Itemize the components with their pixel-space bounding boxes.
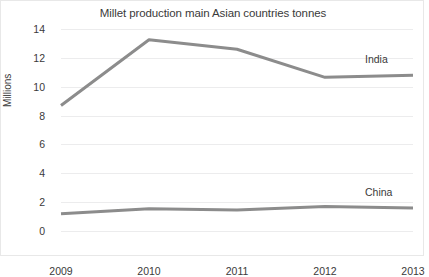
x-axis-tick-label: 2011 bbox=[202, 265, 272, 277]
y-axis-tick-label: 2 bbox=[5, 196, 45, 208]
series-label-china: China bbox=[365, 186, 392, 198]
series-line-india bbox=[61, 40, 413, 106]
plot-area: 02468101214 20092010201120122013 IndiaCh… bbox=[61, 29, 413, 231]
chart-title: Millet production main Asian countries t… bbox=[1, 7, 425, 19]
y-axis-tick-label: 4 bbox=[5, 167, 45, 179]
y-axis-tick-label: 6 bbox=[5, 138, 45, 150]
x-axis-tick-label: 2012 bbox=[290, 265, 360, 277]
y-axis-tick-label: 12 bbox=[5, 52, 45, 64]
y-axis-tick-label: 14 bbox=[5, 23, 45, 35]
gridline bbox=[61, 231, 413, 232]
x-axis-tick-label: 2013 bbox=[378, 265, 429, 277]
y-axis-tick-label: 10 bbox=[5, 81, 45, 93]
x-axis-tick-label: 2010 bbox=[114, 265, 184, 277]
series-lines bbox=[61, 29, 413, 231]
series-label-india: India bbox=[365, 53, 388, 65]
series-line-china bbox=[61, 206, 413, 213]
y-axis-tick-label: 0 bbox=[5, 225, 45, 237]
x-axis-tick-label: 2009 bbox=[26, 265, 96, 277]
y-axis-tick-label: 8 bbox=[5, 110, 45, 122]
